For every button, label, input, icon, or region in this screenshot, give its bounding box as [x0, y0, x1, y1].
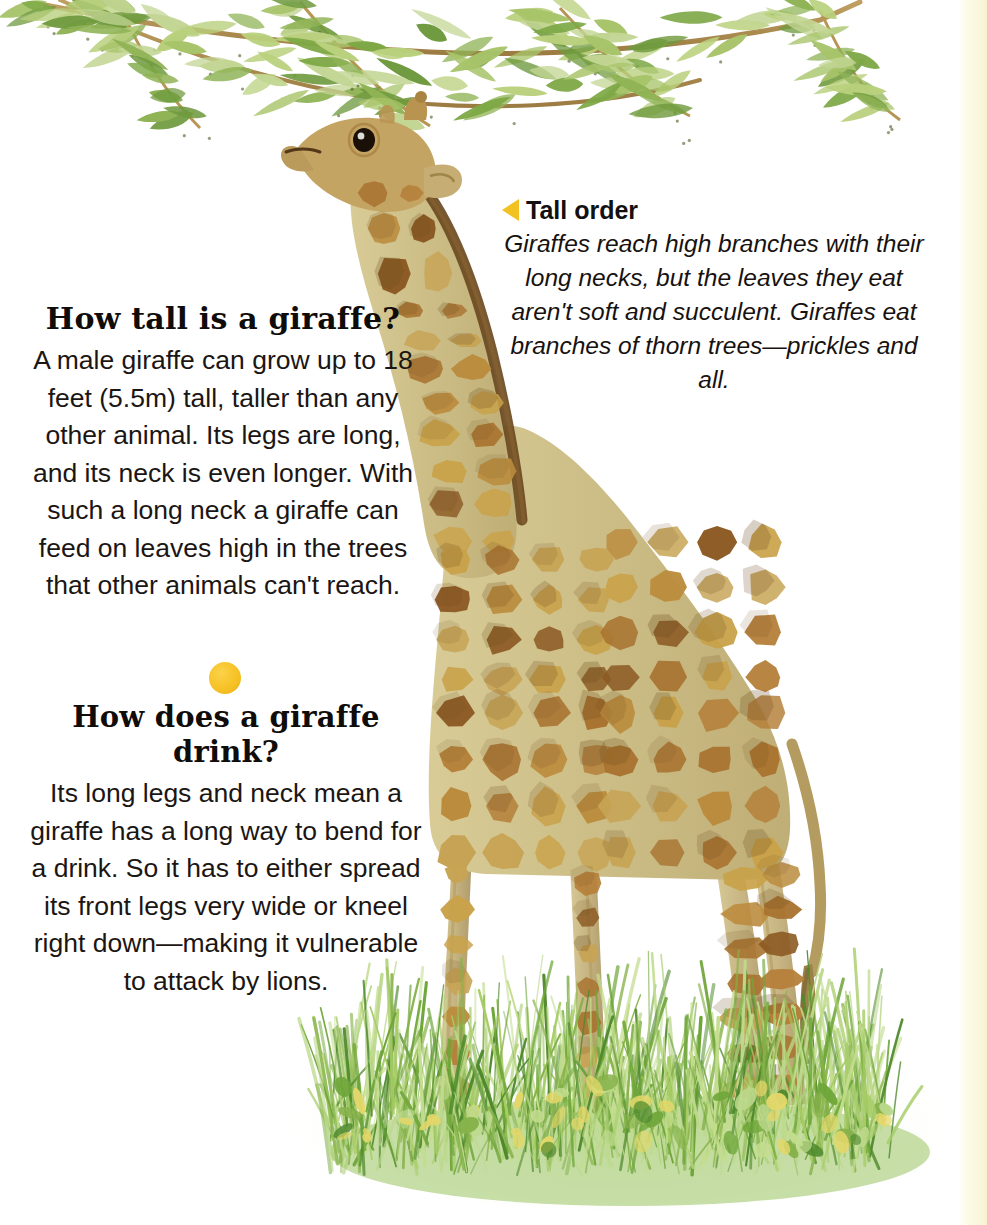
caption-heading: Tall order	[526, 196, 638, 224]
section-how-tall: How tall is a giraffe? A male giraffe ca…	[26, 300, 420, 605]
dot-separator-icon	[209, 662, 241, 694]
book-page: How tall is a giraffe? A male giraffe ca…	[0, 0, 987, 1225]
page-edge-strip	[958, 0, 987, 1225]
heading-how-drink: How does a giraffe drink?	[26, 700, 426, 770]
left-triangle-icon	[502, 199, 519, 221]
caption-body: Giraffes reach high branches with their …	[502, 227, 926, 397]
section-how-drink: How does a giraffe drink? Its long legs …	[26, 700, 426, 1000]
heading-how-tall: How tall is a giraffe?	[26, 300, 420, 338]
caption-heading-row: Tall order	[502, 196, 926, 224]
body-how-tall: A male giraffe can grow up to 18 feet (5…	[26, 342, 420, 605]
caption-tall-order: Tall order Giraffes reach high branches …	[502, 196, 926, 397]
foliage-top	[0, 0, 900, 146]
body-how-drink: Its long legs and neck mean a giraffe ha…	[26, 775, 426, 1000]
giraffe-illustration	[0, 0, 987, 1225]
